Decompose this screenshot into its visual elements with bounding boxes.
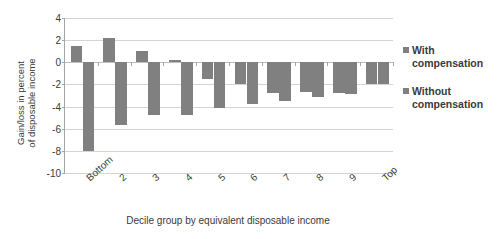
x-axis-tick-mark bbox=[163, 62, 164, 66]
legend-label: With compensation bbox=[412, 44, 483, 69]
bar-chart: Gain/loss in percent of disposable incom… bbox=[0, 0, 502, 239]
x-axis-tick-labels: Bottom23456789Top bbox=[64, 175, 392, 209]
bar-group bbox=[333, 18, 357, 173]
bar bbox=[333, 62, 345, 93]
bar-group bbox=[202, 18, 226, 173]
bar-group bbox=[366, 18, 390, 173]
legend-label-line-2: compensation bbox=[412, 98, 483, 110]
y-axis-title-line-1: Gain/loss in percent bbox=[15, 61, 27, 145]
bar bbox=[247, 62, 259, 104]
bar-group bbox=[169, 18, 193, 173]
legend-swatch-icon bbox=[403, 47, 409, 53]
bar bbox=[148, 62, 160, 115]
y-axis-tick-label: 0 bbox=[55, 56, 61, 69]
bar bbox=[136, 51, 148, 62]
x-axis-tick-mark bbox=[131, 62, 132, 66]
x-axis-tick-mark bbox=[262, 62, 263, 66]
legend-label-line-1: With bbox=[412, 44, 435, 56]
bar-group bbox=[103, 18, 127, 173]
legend-swatch-icon bbox=[403, 88, 409, 94]
y-axis-tick-mark bbox=[62, 173, 65, 174]
bar bbox=[71, 46, 83, 63]
bar bbox=[345, 62, 357, 94]
legend-label: Without compensation bbox=[412, 85, 483, 110]
x-axis-tick-mark bbox=[327, 62, 328, 66]
bar bbox=[300, 62, 312, 92]
bar bbox=[83, 62, 95, 151]
y-axis-tick-label: -8 bbox=[52, 145, 61, 158]
y-axis-tick-label: -4 bbox=[52, 101, 61, 114]
bar bbox=[103, 38, 115, 62]
x-axis-title: Decile group by equivalent disposable in… bbox=[64, 215, 392, 227]
bar-group bbox=[136, 18, 160, 173]
y-axis-title-line-2: of disposable income bbox=[26, 58, 38, 147]
x-axis-tick-mark bbox=[360, 62, 361, 66]
y-axis-title: Gain/loss in percent of disposable incom… bbox=[11, 23, 41, 183]
x-axis-tick-mark bbox=[393, 62, 394, 66]
legend-label-line-2: compensation bbox=[412, 57, 483, 69]
legend-label-line-1: Without bbox=[412, 85, 451, 97]
bars-layer bbox=[65, 18, 393, 173]
x-axis-tick-mark bbox=[196, 62, 197, 66]
bar-group bbox=[235, 18, 259, 173]
bar bbox=[267, 62, 279, 93]
bar bbox=[279, 62, 291, 101]
chart-legend: With compensation Without compensation bbox=[403, 44, 499, 126]
bar bbox=[181, 62, 193, 115]
bar bbox=[202, 62, 214, 79]
plot-area: 420-2-4-6-8-10 bbox=[64, 18, 392, 173]
x-axis-tick-mark bbox=[98, 62, 99, 66]
bar bbox=[115, 62, 127, 125]
x-axis-tick-mark bbox=[295, 62, 296, 66]
bar bbox=[378, 62, 390, 84]
bar-group bbox=[71, 18, 95, 173]
y-axis-tick-label: 4 bbox=[55, 12, 61, 25]
y-axis-tick-label: -6 bbox=[52, 123, 61, 136]
bar-group bbox=[267, 18, 291, 173]
bar-group bbox=[300, 18, 324, 173]
x-axis-tick-mark bbox=[229, 62, 230, 66]
y-axis-tick-label: 2 bbox=[55, 34, 61, 47]
y-axis-tick-label: -2 bbox=[52, 78, 61, 91]
bar bbox=[366, 62, 378, 84]
bar bbox=[214, 62, 226, 107]
y-axis-tick-label: -10 bbox=[47, 167, 61, 180]
bar bbox=[235, 62, 247, 84]
legend-item-without-compensation: Without compensation bbox=[403, 85, 499, 110]
gridline: -10 bbox=[65, 173, 393, 174]
bar bbox=[169, 60, 181, 63]
bar bbox=[312, 62, 324, 96]
legend-item-with-compensation: With compensation bbox=[403, 44, 499, 69]
